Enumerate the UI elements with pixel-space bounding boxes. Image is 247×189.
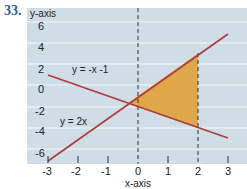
svg-text:2: 2 (38, 63, 44, 75)
svg-text:-2: -2 (35, 105, 45, 117)
svg-text:-2: -2 (71, 165, 81, 177)
y-axis-title: y-axis (30, 8, 56, 19)
svg-text:-1: -1 (101, 165, 111, 177)
svg-text:0: 0 (135, 165, 141, 177)
svg-text:3: 3 (225, 165, 231, 177)
svg-text:2: 2 (195, 165, 201, 177)
label-y-neg-x-minus-1: y = -x -1 (72, 64, 109, 75)
svg-text:-3: -3 (42, 165, 52, 177)
svg-text:-4: -4 (35, 125, 45, 137)
chart: 6 4 2 0 -2 -4 -6 -3 -2 -1 0 1 2 3 y-axis… (0, 0, 247, 189)
svg-text:0: 0 (38, 83, 44, 95)
svg-text:4: 4 (38, 41, 44, 53)
label-y-2x: y = 2x (60, 116, 87, 127)
x-axis-title: x-axis (125, 178, 151, 189)
svg-text:1: 1 (165, 165, 171, 177)
plot-panel (27, 8, 247, 164)
svg-text:6: 6 (38, 20, 44, 32)
x-tick-labels: -3 -2 -1 0 1 2 3 (42, 165, 231, 177)
svg-text:-6: -6 (35, 147, 45, 159)
